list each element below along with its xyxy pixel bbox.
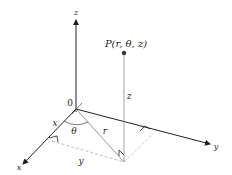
dashed-line-to-y-axis [124,130,157,162]
y-axis [76,109,210,144]
x-axis-label: x [17,163,22,172]
theta-label: θ [71,126,77,136]
origin-tick [72,103,82,114]
z-segment-label: z [126,91,132,101]
r-segment-label: r [103,126,108,136]
y-axis-label: y [213,142,219,151]
point-p [122,51,126,55]
origin-label: 0 [67,98,73,108]
y-segment-label: y [77,156,84,166]
r-segment [76,109,124,162]
x-axis [23,109,76,164]
z-axis-label: z [73,8,79,17]
x-segment-label: x [52,118,57,128]
theta-arc [64,121,88,125]
dashed-line-to-x-axis [52,141,124,162]
point-p-label: P(r, θ, z) [104,38,147,49]
right-angle-mark-foot [119,150,124,156]
cylindrical-coordinates-diagram: P(r, θ, z) z x y 0 x θ r y z [0,0,232,175]
